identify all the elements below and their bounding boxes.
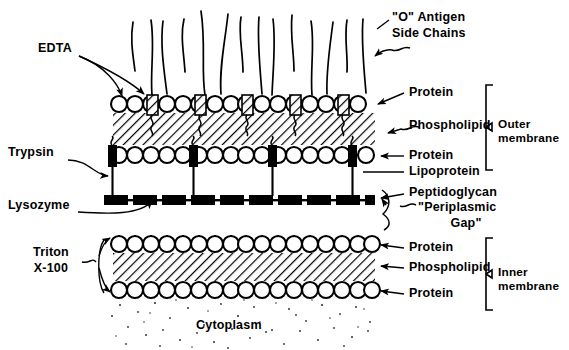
- label-phospholipid-outer: Phospholipid: [409, 118, 491, 132]
- label-lipoprotein: Lipoprotein: [409, 164, 480, 178]
- o-antigen-leader: [377, 20, 389, 29]
- cell-envelope-drawing: [0, 0, 569, 350]
- o-antigen-side-chains: [132, 11, 366, 95]
- inner-membrane-phospholipid-core: [113, 253, 375, 281]
- label-peptidoglycan: Peptidoglycan: [409, 185, 497, 199]
- label-outer-membrane-line1: Outer: [498, 118, 530, 131]
- label-triton-line2: X-100: [20, 261, 82, 275]
- outer-membrane-inner-leaflet-heads: [111, 147, 374, 163]
- lipoprotein-stalks: [113, 167, 353, 196]
- label-protein-outer-top: Protein: [409, 85, 453, 99]
- label-outer-membrane-line2: membrane: [498, 132, 559, 145]
- label-lysozyme: Lysozyme: [8, 198, 70, 212]
- inner-membrane-outer-leaflet-heads: [111, 236, 380, 252]
- label-periplasmic-line1: "Periplasmic: [418, 200, 497, 214]
- label-edta: EDTA: [38, 41, 72, 55]
- o-antigen-squiggle: [375, 47, 410, 56]
- label-trypsin: Trypsin: [8, 145, 54, 159]
- inner-membrane-inner-leaflet-heads: [111, 282, 380, 298]
- label-protein-outer-bottom: Protein: [409, 148, 453, 162]
- label-o-antigen-line1: "O" Antigen: [392, 10, 465, 24]
- outer-membrane-phospholipid-core: [113, 113, 375, 145]
- inner-membrane-bracket: [486, 238, 493, 310]
- label-o-antigen-line2: Side Chains: [392, 26, 466, 40]
- trypsin-leader-arrow: [68, 160, 108, 176]
- label-triton-line1: Triton: [20, 245, 82, 259]
- peptidoglycan-layer: [104, 195, 375, 205]
- label-inner-membrane-line2: membrane: [498, 280, 559, 293]
- label-inner-membrane-line1: Inner: [498, 266, 528, 279]
- label-cytoplasm: Cytoplasm: [196, 318, 262, 332]
- label-periplasmic-line2: Gap": [418, 216, 514, 230]
- diagram-canvas: EDTA Trypsin Lysozyme Triton X-100 "O" A…: [0, 0, 569, 350]
- label-protein-inner-bottom: Protein: [409, 286, 453, 300]
- label-phospholipid-inner: Phospholipid: [409, 260, 491, 274]
- label-protein-inner-top: Protein: [409, 240, 453, 254]
- triton-leader: [82, 240, 104, 293]
